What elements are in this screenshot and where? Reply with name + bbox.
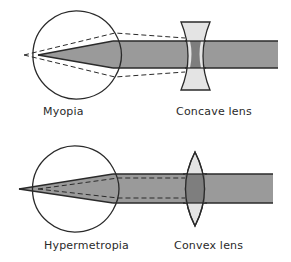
diagram-canvas: [0, 0, 291, 262]
convex-lens-label: Convex lens: [174, 239, 243, 252]
concave-lens-label: Concave lens: [176, 105, 252, 118]
myopia-light-beam: [38, 41, 278, 68]
hypermetropia-label: Hypermetropia: [44, 239, 129, 252]
hypermetropia-diagram: [19, 146, 273, 232]
myopia-diagram: [24, 11, 278, 99]
myopia-label: Myopia: [43, 105, 84, 118]
